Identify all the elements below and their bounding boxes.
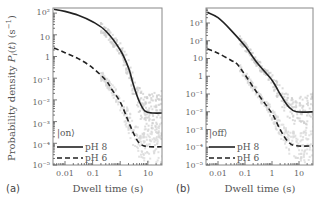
y-axis-label: Probability density Pi(t) (s−1) bbox=[5, 15, 19, 161]
panel-label-b: (b) bbox=[176, 183, 190, 194]
svg-text:10²: 10² bbox=[37, 8, 50, 17]
svg-text:10⁻⁵: 10⁻⁵ bbox=[32, 161, 50, 170]
svg-text:1: 1 bbox=[269, 169, 274, 178]
x-tick-labels-a: 0.01 0.1 1 10 bbox=[56, 169, 153, 178]
svg-text:1: 1 bbox=[45, 53, 50, 62]
svg-text:10: 10 bbox=[294, 169, 304, 178]
svg-text:10⁻¹: 10⁻¹ bbox=[32, 76, 50, 85]
figure: Probability density Pi(t) (s−1) 10² 10 1… bbox=[0, 0, 324, 206]
svg-text:0.1: 0.1 bbox=[239, 169, 252, 178]
panel-b: 10³ 10² 10 1 10⁻¹ 10⁻² 10⁻³ 10⁻⁴ 10⁻⁵ 0.… bbox=[176, 8, 316, 194]
legend-ph8-b: pH 8 bbox=[237, 142, 259, 152]
x-axis-label-a: Dwell time (s) bbox=[73, 183, 144, 194]
svg-text:1: 1 bbox=[198, 72, 203, 81]
svg-text:10⁻³: 10⁻³ bbox=[185, 126, 203, 135]
svg-text:10⁻²: 10⁻² bbox=[32, 98, 50, 107]
svg-text:10²: 10² bbox=[190, 37, 203, 46]
state-label-on: |on⟩ bbox=[57, 128, 75, 139]
svg-text:1: 1 bbox=[117, 169, 122, 178]
state-label-off: |off⟩ bbox=[209, 128, 227, 139]
legend-ph8-a: pH 8 bbox=[85, 142, 107, 152]
svg-text:10⁻⁵: 10⁻⁵ bbox=[185, 161, 203, 170]
scatter-points-a bbox=[100, 22, 165, 170]
svg-text:0.1: 0.1 bbox=[87, 169, 100, 178]
panel-a: 10² 10 1 10⁻¹ 10⁻² 10⁻³ 10⁻⁴ 10⁻⁵ 0.01 0… bbox=[6, 8, 165, 194]
svg-text:10⁻⁴: 10⁻⁴ bbox=[32, 141, 50, 150]
svg-text:10⁻³: 10⁻³ bbox=[32, 120, 50, 129]
svg-text:10⁻⁴: 10⁻⁴ bbox=[185, 143, 203, 152]
svg-text:10: 10 bbox=[193, 54, 203, 63]
svg-text:10³: 10³ bbox=[190, 19, 203, 28]
svg-text:10: 10 bbox=[143, 169, 153, 178]
svg-text:0.01: 0.01 bbox=[209, 169, 227, 178]
legend-b: |off⟩ pH 8 pH 6 bbox=[209, 128, 259, 163]
svg-text:0.01: 0.01 bbox=[56, 169, 74, 178]
svg-text:10⁻²: 10⁻² bbox=[185, 108, 203, 117]
x-tick-labels-b: 0.01 0.1 1 10 bbox=[209, 169, 304, 178]
x-axis-label-b: Dwell time (s) bbox=[225, 183, 296, 194]
legend-ph6-a: pH 6 bbox=[85, 153, 107, 163]
panel-label-a: (a) bbox=[6, 183, 20, 194]
svg-text:10: 10 bbox=[40, 33, 50, 42]
legend-a: |on⟩ pH 8 pH 6 bbox=[57, 128, 107, 163]
svg-text:10⁻¹: 10⁻¹ bbox=[185, 90, 203, 99]
legend-ph6-b: pH 6 bbox=[237, 153, 259, 163]
y-tick-labels-a: 10² 10 1 10⁻¹ 10⁻² 10⁻³ 10⁻⁴ 10⁻⁵ bbox=[32, 8, 50, 170]
y-tick-labels-b: 10³ 10² 10 1 10⁻¹ 10⁻² 10⁻³ 10⁻⁴ 10⁻⁵ bbox=[185, 19, 203, 170]
